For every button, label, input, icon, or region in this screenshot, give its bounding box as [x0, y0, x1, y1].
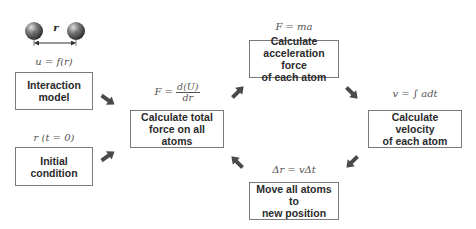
move-atoms-box: Move all atoms to new position [249, 182, 339, 220]
acceleration-formula: F = ma [249, 21, 339, 33]
velocity-formula: v = ∫ adt [368, 88, 462, 100]
arrow-down-left-icon [343, 153, 361, 171]
arrow-up-right-icon [229, 83, 247, 101]
total-force-formula: F = d(U) dr [130, 82, 224, 103]
initial-condition-box: Initial condition [15, 147, 93, 186]
distance-label: r [50, 22, 62, 34]
fraction-denominator: dr [183, 93, 194, 103]
fraction: d(U) dr [176, 82, 200, 103]
move-formula: Δr = vΔt [249, 164, 339, 176]
interaction-model-box: Interaction model [15, 72, 93, 110]
interaction-formula: u = f(r) [15, 56, 93, 68]
initial-condition-formula: r (t = 0) [15, 132, 93, 144]
arrow-down-right-icon [99, 91, 118, 108]
total-force-formula-lhs: F = [154, 86, 173, 97]
total-force-box: Calculate total force on all atoms [130, 110, 224, 148]
arrow-down-right-icon [343, 84, 361, 102]
md-flow-diagram: r u = f(r) Interaction model r (t = 0) I… [0, 0, 476, 229]
acceleration-box: Calculate acceleration force of each ato… [249, 40, 339, 78]
arrow-up-right-icon [99, 147, 118, 164]
velocity-box: Calculate velocity of each atom [368, 110, 462, 148]
arrow-up-left-icon [228, 153, 246, 171]
